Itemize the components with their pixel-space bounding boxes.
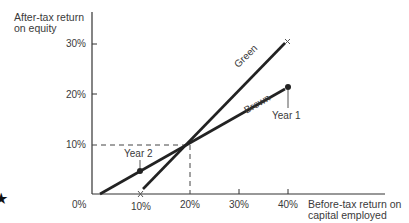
green-end-x-marker	[285, 39, 290, 44]
year1-dot	[285, 84, 291, 90]
x-tick-label-40: 40%	[278, 199, 298, 210]
y-tick-label-20: 20%	[66, 89, 86, 100]
y-tick-label-10: 10%	[66, 139, 86, 150]
year2-label: Year 2	[124, 148, 153, 159]
x-axis-title: Before-tax return on capital employed	[308, 199, 401, 221]
year2-dot	[137, 168, 143, 174]
x-axis-title-line2: capital employed	[308, 210, 401, 221]
y-axis-title: After-tax return on equity	[14, 12, 84, 34]
y-axis-title-line2: on equity	[14, 23, 84, 34]
x-tick-label-0: 0%	[72, 199, 86, 210]
x-tick-label-10: 10%	[131, 201, 151, 212]
year1-label: Year 1	[272, 110, 301, 121]
y-tick-label-30: 30%	[66, 38, 86, 49]
star-icon: ★	[0, 193, 8, 204]
x-tick-label-20: 20%	[180, 199, 200, 210]
green-line	[143, 43, 285, 189]
x-tick-label-30: 30%	[229, 199, 249, 210]
